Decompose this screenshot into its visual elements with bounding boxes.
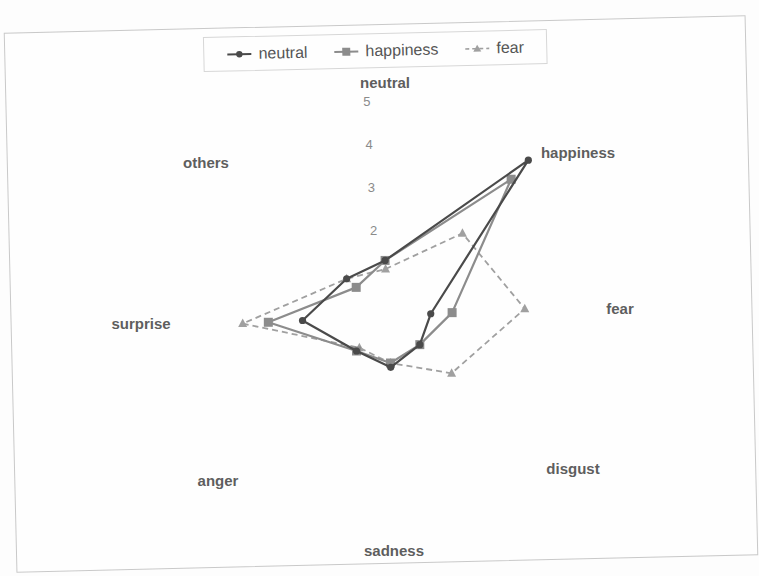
data-point (448, 308, 457, 317)
data-point (299, 317, 306, 324)
data-point (427, 310, 434, 317)
data-point (238, 319, 247, 328)
data-point (343, 275, 350, 282)
axis-label-anger: anger (198, 472, 239, 489)
data-point (520, 304, 529, 313)
tick-label: 5 (363, 94, 370, 109)
tick-label: 4 (365, 137, 372, 152)
data-point (353, 347, 360, 354)
data-point (387, 364, 394, 371)
data-point (525, 157, 532, 164)
series-happiness (264, 175, 516, 368)
data-point (416, 341, 423, 348)
radar-plot: neutralhappinessfeardisgustsadnessangers… (0, 0, 759, 576)
axis-label-fear: fear (606, 300, 634, 317)
axis-label-others: others (183, 154, 229, 171)
axis-label-surprise: surprise (111, 315, 170, 332)
series-fear (238, 228, 529, 376)
tick-label: 3 (368, 180, 375, 195)
axis-label-happiness: happiness (541, 144, 615, 161)
tick-label: 2 (370, 223, 377, 238)
data-point (458, 228, 467, 237)
axis-label-disgust: disgust (546, 460, 599, 477)
data-point (264, 318, 273, 327)
axis-label-sadness: sadness (364, 542, 424, 559)
data-point (352, 283, 361, 292)
data-point (381, 257, 388, 264)
axis-label-neutral: neutral (360, 74, 410, 91)
